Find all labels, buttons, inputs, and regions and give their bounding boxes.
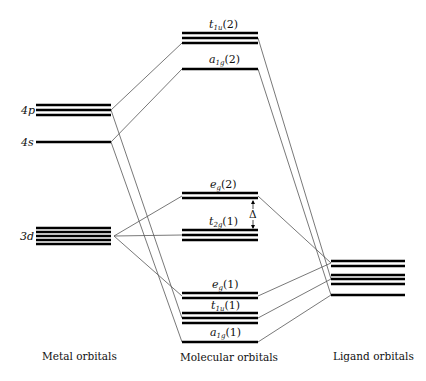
level-4s: 4s xyxy=(20,136,111,149)
level-t1u-1: t1u(1) xyxy=(182,299,258,323)
mo-diagram: 4p 4s 3d t1u(2) a1g(2) eg( xyxy=(0,0,426,381)
level-4p: 4p xyxy=(20,104,111,117)
label-a1g-2: a1g(2) xyxy=(209,53,240,67)
level-eg-2: eg(2) xyxy=(182,178,258,198)
label-4s: 4s xyxy=(20,136,34,149)
level-a1g-1: a1g(1) xyxy=(182,326,258,342)
level-t1u-2: t1u(2) xyxy=(182,18,258,43)
level-a1g-2: a1g(2) xyxy=(182,53,258,69)
label-3d: 3d xyxy=(20,230,34,243)
label-eg-2: eg(2) xyxy=(210,178,237,192)
ligand-level-eg xyxy=(331,261,405,266)
column-title-metal: Metal orbitals xyxy=(42,350,117,362)
delta-label: Δ xyxy=(249,208,257,220)
column-title-molecular: Molecular orbitals xyxy=(180,351,278,363)
level-3d: 3d xyxy=(20,228,111,244)
delta-splitting: Δ xyxy=(247,200,259,229)
label-4p: 4p xyxy=(20,104,35,117)
molecular-orbitals: t1u(2) a1g(2) eg(2) t2g(1) Δ eg(1) xyxy=(182,18,259,342)
level-t2g-1: t2g(1) xyxy=(182,215,258,240)
label-t1u-1: t1u(1) xyxy=(211,299,240,313)
label-t1u-2: t1u(2) xyxy=(209,18,238,32)
metal-orbitals: 4p 4s 3d xyxy=(20,104,111,244)
label-eg-1: eg(1) xyxy=(212,278,239,292)
level-eg-1: eg(1) xyxy=(182,278,258,298)
label-a1g-1: a1g(1) xyxy=(210,326,241,340)
column-title-ligand: Ligand orbitals xyxy=(333,350,414,362)
ligand-orbitals xyxy=(331,261,405,295)
ligand-level-t1u xyxy=(331,275,405,284)
label-t2g-1: t2g(1) xyxy=(209,215,238,229)
